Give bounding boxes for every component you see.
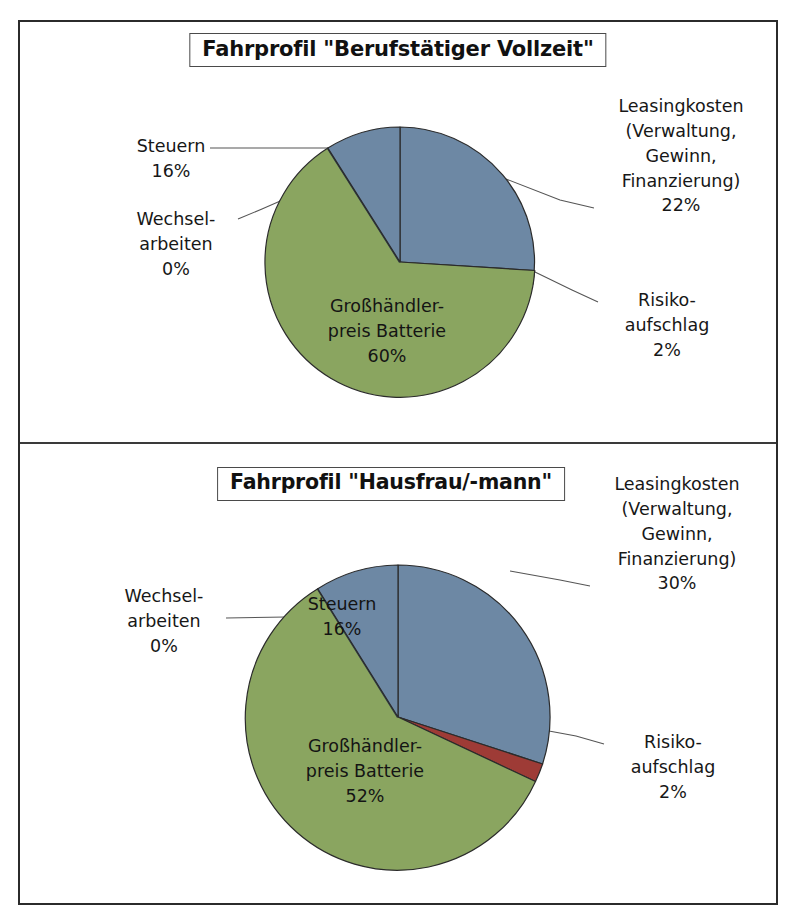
label-leasingkosten-line4: Finanzierung) xyxy=(588,547,766,572)
slicelabel-steuern-bottom: Steuern 16% xyxy=(282,592,402,642)
label-leasingkosten-line1: Leasingkosten xyxy=(592,94,770,119)
label-grosshaendlerpreis-line1: Großhändler- xyxy=(292,294,482,319)
slicelabel-grosshaendlerpreis-top: Großhändler- preis Batterie 60% xyxy=(292,294,482,369)
callout-wechselarbeiten-bottom: Wechsel- arbeiten 0% xyxy=(102,584,226,659)
chart-panel-hausfrau: Fahrprofil "Hausfrau/-mann" xyxy=(20,444,776,905)
label-risikoaufschlag-line2: aufschlag xyxy=(602,313,732,338)
label-risikoaufschlag-value: 2% xyxy=(602,338,732,363)
label-wechselarbeiten-value: 0% xyxy=(114,257,238,282)
label-grosshaendlerpreis-value: 60% xyxy=(292,344,482,369)
label-wechselarbeiten-value: 0% xyxy=(102,634,226,659)
label-grosshaendlerpreis-line1: Großhändler- xyxy=(270,734,460,759)
callout-leasingkosten-top: Leasingkosten (Verwaltung, Gewinn, Finan… xyxy=(592,94,770,218)
label-grosshaendlerpreis-value: 52% xyxy=(270,784,460,809)
label-steuern-name: Steuern xyxy=(128,134,214,159)
label-steuern-name: Steuern xyxy=(282,592,402,617)
leader-line-leasingkosten xyxy=(510,571,590,586)
label-leasingkosten-value: 22% xyxy=(592,193,770,218)
label-leasingkosten-value: 30% xyxy=(588,571,766,596)
pie-slice-leasingkosten xyxy=(400,127,535,284)
label-leasingkosten-line3: Gewinn, xyxy=(592,144,770,169)
label-steuern-value: 16% xyxy=(282,617,402,642)
label-wechselarbeiten-line2: arbeiten xyxy=(114,232,238,257)
label-risikoaufschlag-line2: aufschlag xyxy=(608,755,738,780)
label-leasingkosten-line2: (Verwaltung, xyxy=(592,119,770,144)
label-steuern-value: 16% xyxy=(128,159,214,184)
callout-risikoaufschlag-bottom: Risiko- aufschlag 2% xyxy=(608,730,738,805)
chart-panel-berufstaetiger: Fahrprofil "Berufstätiger Vollzeit" xyxy=(20,22,776,444)
label-grosshaendlerpreis-line2: preis Batterie xyxy=(270,759,460,784)
label-leasingkosten-line1: Leasingkosten xyxy=(588,472,766,497)
label-grosshaendlerpreis-line2: preis Batterie xyxy=(292,319,482,344)
callout-risikoaufschlag-top: Risiko- aufschlag 2% xyxy=(602,288,732,363)
label-risikoaufschlag-line1: Risiko- xyxy=(608,730,738,755)
callout-steuern-top: Steuern 16% xyxy=(128,134,214,184)
figure-frame: Fahrprofil "Berufstätiger Vollzeit" xyxy=(18,20,778,905)
label-leasingkosten-line3: Gewinn, xyxy=(588,522,766,547)
label-wechselarbeiten-line1: Wechsel- xyxy=(114,207,238,232)
label-wechselarbeiten-line1: Wechsel- xyxy=(102,584,226,609)
label-risikoaufschlag-line1: Risiko- xyxy=(602,288,732,313)
label-leasingkosten-line2: (Verwaltung, xyxy=(588,497,766,522)
label-leasingkosten-line4: Finanzierung) xyxy=(592,169,770,194)
slicelabel-grosshaendlerpreis-bottom: Großhändler- preis Batterie 52% xyxy=(270,734,460,809)
label-risikoaufschlag-value: 2% xyxy=(608,780,738,805)
callout-wechselarbeiten-top: Wechsel- arbeiten 0% xyxy=(114,207,238,282)
callout-leasingkosten-bottom: Leasingkosten (Verwaltung, Gewinn, Finan… xyxy=(588,472,766,596)
label-wechselarbeiten-line2: arbeiten xyxy=(102,609,226,634)
